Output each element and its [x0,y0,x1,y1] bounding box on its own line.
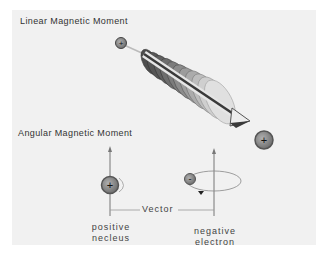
orbit-direction-arrow-icon [198,191,204,195]
nucleus-label-line2: necleus [88,233,134,244]
plus-sign-icon: + [119,39,124,48]
diagram-graphics: + + + - [0,0,323,253]
minus-sign-icon: - [189,174,192,184]
positive-nucleus: + [102,177,119,194]
plus-sign-icon: + [261,134,267,146]
electron-label: negative electron [190,226,240,248]
negative-electron: - [185,174,196,185]
nucleus-spin-arc [119,178,124,192]
plus-sign-icon: + [107,179,113,191]
vector-label: Vector [142,204,174,215]
nucleus-label-line1: positive [88,222,134,233]
linear-direction-arrow [144,54,250,128]
outgoing-particle-positive: + [255,131,273,149]
electron-label-line1: negative [190,226,240,237]
linear-moment-title: Linear Magnetic Moment [20,16,128,26]
electron-label-line2: electron [190,237,240,248]
linear-path-line [124,45,144,54]
electron-axis-arrow [212,148,216,216]
angular-moment-title: Angular Magnetic Moment [18,128,132,138]
incoming-particle-positive: + [116,38,127,49]
nucleus-label: positive necleus [88,222,134,244]
